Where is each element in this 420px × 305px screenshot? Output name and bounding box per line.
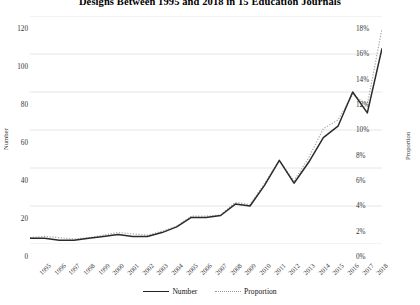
chart-title: Designs Between 1995 and 2018 in 15 Educ… <box>0 0 420 7</box>
x-axis-tick-label: 2001 <box>126 262 140 276</box>
left-axis-tick-label: 80 <box>2 102 28 109</box>
x-axis-tick-label: 2016 <box>346 262 360 276</box>
left-axis-tick-label: 40 <box>2 178 28 185</box>
x-axis-tick-label: 2005 <box>185 262 199 276</box>
x-axis-tick-label: 1998 <box>82 262 96 276</box>
x-axis-tick-label: 1997 <box>67 262 81 276</box>
x-axis-tick-label: 1996 <box>53 262 67 276</box>
legend-item-proportion: Proportion <box>215 287 277 296</box>
x-axis-tick-label: 2011 <box>272 262 286 276</box>
x-axis-tick-label: 2013 <box>302 262 316 276</box>
chart-container: Designs Between 1995 and 2018 in 15 Educ… <box>0 0 420 305</box>
left-axis-tick-label: 120 <box>2 26 28 33</box>
x-axis-tick-label: 2000 <box>111 262 125 276</box>
right-axis-tick-label: 2% <box>356 229 382 236</box>
legend-item-number: Number <box>143 287 197 296</box>
left-axis-tick-label: 60 <box>2 140 28 147</box>
number-line <box>30 48 382 240</box>
chart-legend: Number Proportion <box>0 286 420 296</box>
right-axis-tick-label: 4% <box>356 203 382 210</box>
x-axis-tick-label: 2007 <box>214 262 228 276</box>
x-axis-tick-label: 1999 <box>97 262 111 276</box>
x-axis-tick-label: 2017 <box>361 262 375 276</box>
left-axis-tick-label: 100 <box>2 64 28 71</box>
right-axis-tick-label: 0% <box>356 254 382 261</box>
right-axis-tick-label: 12% <box>356 102 382 109</box>
right-axis-tick-label: 10% <box>356 127 382 134</box>
x-axis-tick-label: 2008 <box>229 262 243 276</box>
legend-swatch-proportion <box>215 291 241 292</box>
x-axis-tick-label: 2018 <box>375 262 389 276</box>
x-axis-tick-label: 2014 <box>317 262 331 276</box>
right-axis-tick-label: 14% <box>356 77 382 84</box>
x-axis-tick-label: 2012 <box>287 262 301 276</box>
x-axis-tick-label: 2010 <box>258 262 272 276</box>
left-axis-tick-label: 0 <box>2 254 28 261</box>
legend-swatch-number <box>143 291 169 292</box>
legend-label-number: Number <box>172 287 197 296</box>
x-axis-tick-label: 2003 <box>155 262 169 276</box>
right-axis-tick-label: 18% <box>356 26 382 33</box>
left-axis-tick-label: 20 <box>2 216 28 223</box>
right-axis-tick-label: 6% <box>356 178 382 185</box>
plot-area <box>30 16 382 244</box>
x-axis-tick-label: 2015 <box>331 262 345 276</box>
right-axis-title: Proportion <box>404 132 411 160</box>
x-axis-tick-label: 2009 <box>243 262 257 276</box>
x-axis-tick-label: 1995 <box>38 262 52 276</box>
x-axis-tick-label: 2002 <box>141 262 155 276</box>
legend-label-proportion: Proportion <box>244 287 277 296</box>
right-axis-tick-label: 8% <box>356 153 382 160</box>
chart-svg <box>30 16 382 244</box>
x-axis-tick-label: 2006 <box>199 262 213 276</box>
gridlines <box>30 16 382 244</box>
x-axis-tick-label: 2004 <box>170 262 184 276</box>
right-axis-tick-label: 16% <box>356 51 382 58</box>
